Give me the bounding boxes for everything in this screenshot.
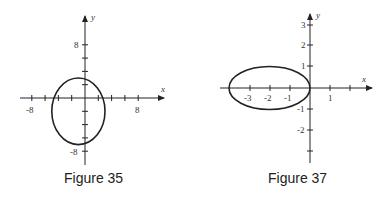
fig37-xtick-neg1: -1 bbox=[284, 93, 292, 103]
fig37-ytick-1: 1 bbox=[301, 61, 306, 71]
figure-37-caption: Figure 37 bbox=[268, 170, 327, 186]
fig37-y-label: y bbox=[315, 10, 320, 20]
fig37-ytick-neg2: -2 bbox=[297, 125, 305, 135]
figure-35 bbox=[20, 16, 164, 165]
fig37-ytick-neg1: -1 bbox=[297, 104, 305, 114]
ellipse-curve bbox=[52, 78, 105, 145]
fig35-ytick-8: 8 bbox=[74, 40, 79, 50]
fig37-ytick-3: 3 bbox=[301, 20, 306, 30]
fig35-y-label: y bbox=[90, 12, 95, 22]
figures-canvas: y x -8 8 8 -8 y x -3 -2 -1 1 3 2 1 -1 -2 bbox=[0, 0, 386, 197]
figure-35-caption: Figure 35 bbox=[64, 170, 123, 186]
fig35-xtick-8: 8 bbox=[135, 105, 140, 115]
fig35-xtick-neg8: -8 bbox=[26, 105, 34, 115]
fig37-xtick-1: 1 bbox=[328, 93, 333, 103]
figure-37 bbox=[220, 14, 372, 163]
fig37-x-label: x bbox=[361, 74, 366, 84]
fig37-xtick-neg3: -3 bbox=[244, 93, 252, 103]
fig37-ytick-2: 2 bbox=[301, 40, 306, 50]
fig35-ytick-neg8: -8 bbox=[70, 147, 78, 157]
fig35-x-label: x bbox=[160, 84, 165, 94]
fig37-xtick-neg2: -2 bbox=[264, 93, 272, 103]
